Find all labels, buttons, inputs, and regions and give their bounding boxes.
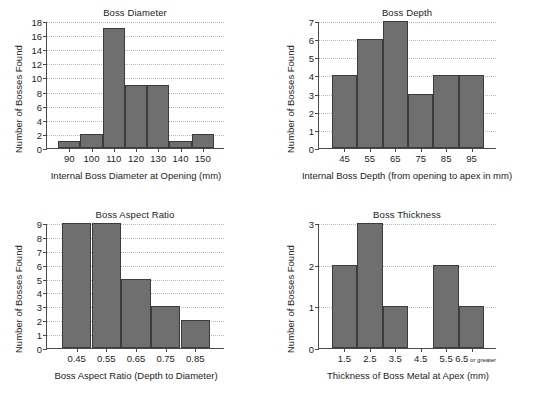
histogram-bar (169, 141, 191, 148)
x-tick-mark (158, 148, 159, 152)
x-axis-label: Boss Aspect Ratio (Depth to Diameter) (14, 370, 258, 381)
y-tick-mark (43, 22, 47, 23)
x-tick-label: 3.5 (389, 353, 402, 364)
y-tick-mark (315, 266, 319, 267)
y-tick-label: 4 (309, 71, 314, 82)
x-tick-mark (421, 348, 422, 352)
x-tick-label: 0.75 (156, 353, 175, 364)
histogram-bar (332, 265, 357, 348)
chart-panel-boss-diameter: Boss Diameter Number of Bosses Found 024… (0, 0, 272, 202)
x-tick-label: 2.5 (363, 353, 376, 364)
plot-inner: 02468101214161890100110120130140150 (47, 22, 224, 148)
histogram-bar (125, 85, 147, 149)
x-tick-label: 95 (466, 153, 477, 164)
y-tick-label: 8 (37, 87, 42, 98)
y-tick-mark (43, 78, 47, 79)
x-tick-label-suffix: or greater (468, 357, 496, 363)
x-tick-label: 120 (128, 153, 144, 164)
histogram-bar (147, 85, 169, 149)
y-tick-mark (43, 224, 47, 225)
y-tick-label: 0 (309, 144, 314, 155)
x-tick-label: 90 (64, 153, 75, 164)
x-tick-label: 55 (365, 153, 376, 164)
y-tick-mark (43, 335, 47, 336)
y-tick-label: 1 (309, 302, 314, 313)
x-tick-mark (370, 148, 371, 152)
histogram-bar (151, 306, 181, 348)
x-tick-mark (472, 348, 473, 352)
gridline (47, 64, 224, 65)
histogram-bar (181, 320, 211, 348)
y-tick-mark (43, 280, 47, 281)
y-tick-label: 5 (309, 53, 314, 64)
x-tick-label: 1.5 (338, 353, 351, 364)
y-tick-mark (43, 93, 47, 94)
histogram-bar (121, 279, 151, 348)
chart-panel-boss-thickness: Boss Thickness Number of Bosses Found 01… (272, 202, 544, 405)
histogram-bar (92, 223, 122, 348)
histogram-bar (103, 28, 125, 148)
y-tick-label: 3 (37, 302, 42, 313)
y-tick-mark (315, 76, 319, 77)
chart-title: Boss Depth (318, 7, 496, 18)
gridline (47, 78, 224, 79)
x-tick-label: 4.5 (414, 353, 427, 364)
chart-panel-boss-depth: Boss Depth Number of Bosses Found 012345… (272, 0, 544, 202)
y-tick-mark (315, 58, 319, 59)
chart-title: Boss Aspect Ratio (46, 209, 224, 220)
y-tick-mark (315, 149, 319, 150)
y-axis-label: Number of Bosses Found (13, 45, 24, 153)
x-tick-label: 100 (84, 153, 100, 164)
histogram-bar (459, 306, 484, 348)
gridline (47, 36, 224, 37)
x-tick-mark (370, 348, 371, 352)
y-tick-mark (43, 307, 47, 308)
histogram-bar (62, 223, 92, 348)
x-tick-label: 0.85 (186, 353, 205, 364)
y-tick-label: 6 (37, 260, 42, 271)
y-tick-mark (43, 293, 47, 294)
histogram-bar (383, 21, 408, 148)
y-tick-label: 16 (31, 31, 42, 42)
y-tick-mark (43, 349, 47, 350)
gridline (319, 224, 496, 225)
x-tick-mark (446, 348, 447, 352)
y-tick-mark (315, 95, 319, 96)
histogram-bar (383, 306, 408, 348)
y-tick-mark (43, 121, 47, 122)
y-tick-label: 7 (37, 246, 42, 257)
x-tick-label: 65 (390, 153, 401, 164)
histogram-bar (357, 223, 382, 348)
x-tick-label: 150 (195, 153, 211, 164)
y-tick-label: 2 (309, 260, 314, 271)
y-axis-label: Number of Bosses Found (285, 245, 296, 353)
histogram-bar (459, 75, 484, 148)
histogram-bar (408, 94, 433, 148)
y-tick-label: 6 (37, 101, 42, 112)
x-tick-mark (203, 148, 204, 152)
x-tick-mark (395, 348, 396, 352)
x-tick-label: 0.65 (127, 353, 146, 364)
y-tick-mark (315, 113, 319, 114)
x-tick-mark (77, 348, 78, 352)
x-tick-label: 85 (441, 153, 452, 164)
y-tick-label: 0 (37, 144, 42, 155)
x-tick-mark (344, 348, 345, 352)
x-tick-mark (106, 348, 107, 352)
x-tick-label: 45 (339, 153, 350, 164)
gridline (47, 22, 224, 23)
chart-title: Boss Thickness (318, 209, 496, 220)
y-tick-label: 2 (37, 129, 42, 140)
x-tick-mark (195, 348, 196, 352)
plot-area: 01234567455565758595 (318, 22, 496, 149)
y-tick-mark (315, 40, 319, 41)
x-tick-mark (446, 148, 447, 152)
x-tick-mark (136, 348, 137, 352)
y-tick-mark (43, 149, 47, 150)
x-tick-mark (421, 148, 422, 152)
histogram-bar (433, 265, 458, 348)
y-tick-mark (43, 50, 47, 51)
x-tick-label: 5.5 (440, 353, 453, 364)
y-tick-label: 4 (37, 288, 42, 299)
y-tick-label: 10 (31, 73, 42, 84)
